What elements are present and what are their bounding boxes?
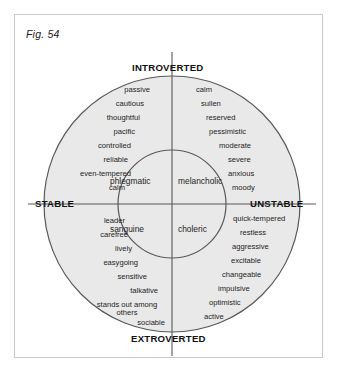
trait-sanguine-5: talkative <box>38 287 158 296</box>
trait-melancholic-1: sullen <box>201 100 221 109</box>
trait-sanguine-1: carefree <box>16 231 128 240</box>
trait-phlegmatic-5: reliable <box>18 156 128 165</box>
trait-sanguine-2: lively <box>20 245 132 254</box>
axis-label-extroverted: EXTROVERTED <box>131 333 206 344</box>
trait-choleric-6: optimistic <box>209 299 241 308</box>
trait-melancholic-2: reserved <box>206 114 236 123</box>
trait-melancholic-6: anxious <box>228 170 254 179</box>
trait-melancholic-3: pessimistic <box>209 128 246 137</box>
trait-phlegmatic-1: cautious <box>34 100 144 109</box>
trait-phlegmatic-3: pacific <box>25 128 135 137</box>
trait-choleric-3: excitable <box>231 257 261 266</box>
trait-choleric-5: impulsive <box>218 285 250 294</box>
trait-choleric-7: active <box>204 313 224 322</box>
label-layer: INTROVERTED EXTROVERTED STABLE UNSTABLE … <box>0 0 339 370</box>
trait-melancholic-7: moody <box>232 184 255 193</box>
trait-choleric-1: restless <box>240 229 266 238</box>
figure-root: Fig. 54 INTROVERTED EXTROVERTED STABLE U… <box>0 0 339 370</box>
axis-label-introverted: INTROVERTED <box>132 62 204 73</box>
trait-melancholic-5: severe <box>228 156 251 165</box>
trait-phlegmatic-6: even-tempered <box>16 170 131 179</box>
trait-melancholic-0: calm <box>196 86 212 95</box>
trait-phlegmatic-4: controlled <box>21 142 131 151</box>
trait-phlegmatic-2: thoughtful <box>30 114 140 123</box>
trait-sanguine-7: others <box>116 308 137 317</box>
trait-phlegmatic-7: calm <box>15 184 125 193</box>
trait-choleric-0: quick-tempered <box>233 215 285 224</box>
axis-label-unstable: UNSTABLE <box>250 198 304 209</box>
trait-phlegmatic-0: passive <box>40 86 150 95</box>
trait-sanguine-4: sensitive <box>30 273 147 282</box>
trait-sanguine-stands-out: stands out among others <box>82 301 172 318</box>
trait-sanguine-3: easygoing <box>24 259 138 268</box>
trait-sanguine-0: leader <box>15 217 125 226</box>
trait-sanguine-8: sociable <box>70 319 165 328</box>
axis-label-stable: STABLE <box>35 198 74 209</box>
trait-melancholic-4: moderate <box>219 142 251 151</box>
trait-choleric-2: aggressive <box>232 243 269 252</box>
quadrant-label-choleric: choleric <box>178 224 234 234</box>
trait-choleric-4: changeable <box>222 271 261 280</box>
